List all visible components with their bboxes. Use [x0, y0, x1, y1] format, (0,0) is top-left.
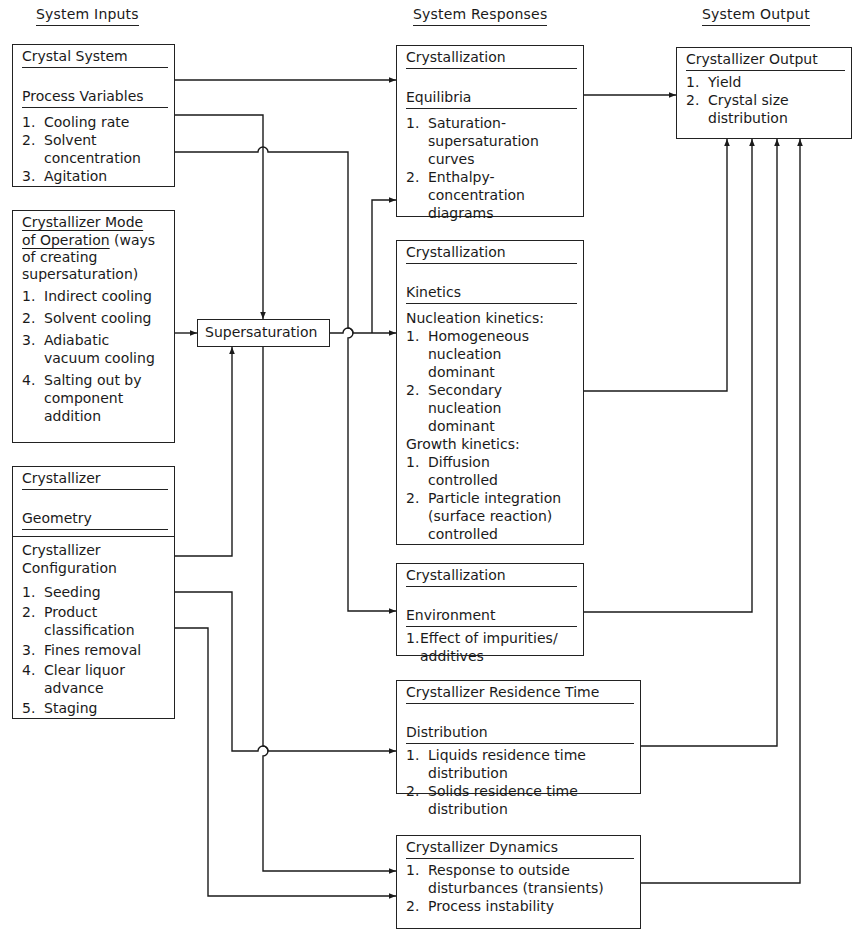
- list-item: 5.Staging: [22, 699, 168, 717]
- list-item: 1.Effect of impurities/additives: [406, 629, 577, 665]
- list-item: 1.Indirect cooling: [22, 287, 168, 305]
- list-item: 1.Yield: [686, 73, 845, 91]
- arrow-solvent-concentration-to-environment: [175, 147, 396, 611]
- mode-desc-2: supersaturation): [22, 265, 168, 283]
- list-item: 2.Particle integration(surface reaction)…: [406, 489, 577, 543]
- mode-of-operation-title-1: Crystallizer Mode: [22, 213, 168, 231]
- arrow-dynamics-to-output: [641, 139, 800, 883]
- mode-of-operation-title-2: of Operation: [22, 232, 110, 248]
- configuration-title-2: Configuration: [22, 559, 168, 577]
- crystallization-kinetics-box: Crystallization Kinetics Nucleation kine…: [396, 240, 584, 545]
- kinetics-title-1: Crystallization: [406, 243, 577, 264]
- list-item: 3.Adiabaticvacuum cooling: [22, 331, 168, 367]
- list-item: 1.Seeding: [22, 583, 168, 601]
- list-item: 1.Liquids residence timedistribution: [406, 746, 634, 782]
- list-item: 1.Saturation-supersaturationcurves: [406, 114, 577, 168]
- geometry-title-2: Geometry: [22, 509, 168, 530]
- environment-title-1: Crystallization: [406, 566, 577, 587]
- geometry-title-1: Crystallizer: [22, 469, 168, 490]
- process-variables-list: 1.Cooling rate 2.Solventconcentration 3.…: [22, 113, 168, 185]
- nucleation-kinetics-heading: Nucleation kinetics:: [406, 309, 577, 327]
- arrow-product-classification-to-rtd: [175, 592, 396, 751]
- arrow-fines-removal-to-dynamics: [175, 628, 396, 896]
- configuration-section: Crystallizer Configuration 1.Seeding 2.P…: [13, 536, 174, 717]
- column-heading-output: System Output: [702, 6, 810, 26]
- list-item: 2.Solids residence timedistribution: [406, 782, 634, 818]
- crystallization-equilibria-box: Crystallization Equilibria 1.Saturation-…: [396, 45, 584, 217]
- list-item: 2.Process instability: [406, 897, 634, 915]
- list-item: 2.Productclassification: [22, 603, 168, 639]
- list-item: 2.Secondarynucleationdominant: [406, 381, 577, 435]
- arrow-supersaturation-to-equilibria: [372, 200, 396, 333]
- arrow-supersaturation-to-kinetics: [330, 328, 396, 333]
- mode-of-operation-box: Crystallizer Mode of Operation (ways of …: [12, 210, 175, 443]
- list-item: 1.Diffusioncontrolled: [406, 453, 577, 489]
- supersaturation-label: Supersaturation: [205, 324, 317, 340]
- list-item: 2.Crystal sizedistribution: [686, 91, 845, 127]
- crystallization-environment-box: Crystallization Environment 1.Effect of …: [396, 563, 584, 656]
- residence-time-distribution-box: Crystallizer Residence Time Distribution…: [396, 680, 641, 794]
- arrow-cooling-rate-to-supersaturation: [175, 115, 263, 319]
- arrow-rtd-to-output: [641, 139, 777, 746]
- configuration-title-1: Crystallizer: [22, 541, 168, 559]
- list-item: 2.Solvent cooling: [22, 309, 168, 327]
- list-item: 3.Fines removal: [22, 641, 168, 659]
- crystallizer-geometry-box: Crystallizer Geometry Crystallizer Confi…: [12, 466, 175, 719]
- kinetics-title-2: Kinetics: [406, 283, 577, 304]
- column-heading-inputs: System Inputs: [36, 6, 139, 26]
- crystal-system-box: Crystal System Process Variables 1.Cooli…: [12, 44, 175, 187]
- list-item: 2.Solventconcentration: [22, 131, 168, 167]
- supersaturation-node: Supersaturation: [197, 319, 330, 347]
- list-item: 1.Homogeneousnucleationdominant: [406, 327, 577, 381]
- list-item: 3.Agitation: [22, 167, 168, 185]
- crystal-system-title: Crystal System: [22, 47, 168, 68]
- crystallizer-dynamics-box: Crystallizer Dynamics 1.Response to outs…: [396, 835, 641, 929]
- equilibria-title-1: Crystallization: [406, 48, 577, 69]
- crystallizer-output-box: Crystallizer Output 1.Yield 2.Crystal si…: [676, 47, 852, 139]
- equilibria-title-2: Equilibria: [406, 88, 577, 109]
- list-item: 1.Cooling rate: [22, 113, 168, 131]
- arrow-configuration-to-supersaturation: [175, 347, 232, 556]
- mode-desc-1: of creating: [22, 249, 168, 265]
- dynamics-title: Crystallizer Dynamics: [406, 838, 634, 859]
- process-variables-subtitle: Process Variables: [22, 87, 168, 108]
- column-heading-responses: System Responses: [413, 6, 547, 26]
- environment-title-2: Environment: [406, 606, 577, 627]
- cropped-figure-title: [90, 0, 300, 3]
- arrow-supersaturation-to-dynamics: [263, 347, 396, 871]
- growth-kinetics-heading: Growth kinetics:: [406, 435, 577, 453]
- output-title: Crystallizer Output: [686, 50, 845, 71]
- list-item: 1.Response to outsidedisturbances (trans…: [406, 861, 634, 897]
- list-item: 2.Enthalpy-concentrationdiagrams: [406, 168, 577, 222]
- rtd-title-2: Distribution: [406, 723, 634, 744]
- arrow-environment-to-output: [584, 139, 752, 612]
- list-item: 4.Salting out bycomponentaddition: [22, 371, 168, 425]
- arrow-kinetics-to-output: [584, 139, 727, 391]
- rtd-title-1: Crystallizer Residence Time: [406, 683, 634, 704]
- list-item: 4.Clear liquoradvance: [22, 661, 168, 697]
